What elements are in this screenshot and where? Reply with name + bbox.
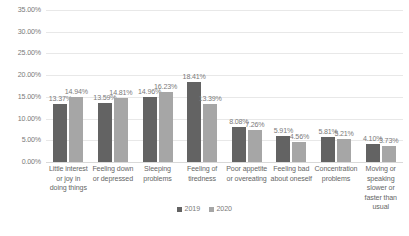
bar-container: 5.81%: [321, 10, 335, 162]
y-axis-tick-label: 30.00%: [18, 28, 41, 36]
bar-2020[interactable]: [69, 97, 83, 162]
bar-container: 7.26%: [248, 10, 262, 162]
y-axis-tick-label: 10.00%: [18, 115, 41, 123]
bar-2020[interactable]: [114, 98, 128, 162]
y-axis-tick-label: 25.00%: [18, 49, 41, 57]
bar-value-label: 3.73%: [379, 137, 398, 145]
bar-value-label: 7.26%: [245, 121, 264, 129]
bar-group: 4.10%3.73%: [358, 10, 403, 162]
bar-container: 16.23%: [159, 10, 173, 162]
y-axis-tick-label: 35.00%: [18, 6, 41, 14]
legend-swatch-icon: [209, 207, 214, 212]
bar-2020[interactable]: [292, 142, 306, 162]
bar-2020[interactable]: [337, 139, 351, 162]
bar-container: 3.73%: [382, 10, 396, 162]
bar-container: 4.56%: [292, 10, 306, 162]
bar-value-label: 5.21%: [334, 130, 353, 138]
y-axis-tick-label: 20.00%: [18, 71, 41, 79]
bar-group: 14.96%16.23%: [135, 10, 180, 162]
bar-group: 5.81%5.21%: [314, 10, 359, 162]
bar-2019[interactable]: [366, 144, 380, 162]
legend-item-2019[interactable]: 2019: [177, 205, 200, 213]
bar-container: 14.81%: [114, 10, 128, 162]
bar-2019[interactable]: [143, 97, 157, 162]
legend-item-2020[interactable]: 2020: [209, 205, 232, 213]
y-axis-tick-label: 15.00%: [18, 93, 41, 101]
bar-2020[interactable]: [382, 146, 396, 162]
bar-container: 4.10%: [366, 10, 380, 162]
bar-2019[interactable]: [98, 103, 112, 162]
y-axis-tick-label: 5.00%: [22, 136, 41, 144]
bar-group: 13.37%14.94%: [46, 10, 91, 162]
bar-container: 13.37%: [53, 10, 67, 162]
bar-2020[interactable]: [159, 92, 173, 162]
bar-2019[interactable]: [232, 127, 246, 162]
y-axis: 0.00%5.00%10.00%15.00%20.00%25.00%30.00%…: [0, 0, 46, 162]
bar-2020[interactable]: [248, 130, 262, 162]
plot-area: 13.37%14.94%13.59%14.81%14.96%16.23%18.4…: [46, 10, 403, 162]
bar-container: 13.59%: [98, 10, 112, 162]
bar-groups: 13.37%14.94%13.59%14.81%14.96%16.23%18.4…: [46, 10, 403, 162]
bar-container: 8.08%: [232, 10, 246, 162]
chart-legend: 20192020: [0, 205, 409, 213]
bar-group: 13.59%14.81%: [91, 10, 136, 162]
legend-label: 2020: [217, 205, 232, 213]
legend-swatch-icon: [177, 207, 182, 212]
y-axis-tick-label: 0.00%: [22, 158, 41, 166]
bar-group: 5.91%4.56%: [269, 10, 314, 162]
bar-container: 5.21%: [337, 10, 351, 162]
bar-2019[interactable]: [53, 104, 67, 162]
bar-value-label: 4.56%: [290, 133, 309, 141]
bar-group: 8.08%7.26%: [225, 10, 270, 162]
bar-value-label: 14.94%: [65, 88, 88, 96]
bar-container: 18.41%: [187, 10, 201, 162]
legend-label: 2019: [185, 205, 200, 213]
bar-2020[interactable]: [203, 104, 217, 162]
bar-2019[interactable]: [276, 136, 290, 162]
bar-container: 13.39%: [203, 10, 217, 162]
bar-chart: 0.00%5.00%10.00%15.00%20.00%25.00%30.00%…: [0, 0, 409, 236]
bar-2019[interactable]: [321, 137, 335, 162]
bar-value-label: 14.81%: [109, 89, 132, 97]
gridline: [46, 162, 403, 163]
bar-group: 18.41%13.39%: [180, 10, 225, 162]
bar-value-label: 16.23%: [154, 83, 177, 91]
bar-container: 5.91%: [276, 10, 290, 162]
bar-container: 14.94%: [69, 10, 83, 162]
bar-value-label: 13.39%: [199, 95, 222, 103]
